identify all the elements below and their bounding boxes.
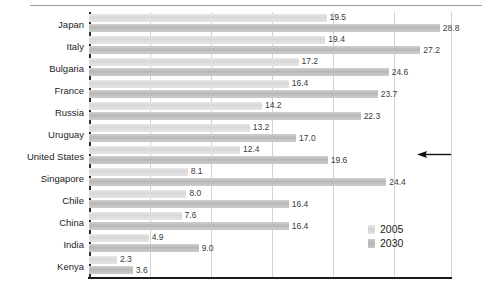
- bar-value-label-2005: 19.5: [330, 13, 347, 22]
- bar-2005: [89, 146, 240, 154]
- legend-swatch-icon-2005: [368, 225, 375, 234]
- x-axis-line: [88, 277, 452, 279]
- bar-2030: [89, 156, 328, 164]
- bar-2005: [89, 168, 188, 176]
- bar-2030: [89, 24, 440, 32]
- legend-label-2005: 2005: [380, 224, 403, 235]
- y-axis-label-japan: Japan: [0, 20, 84, 30]
- bar-value-label-2005: 2.3: [120, 255, 132, 264]
- y-axis-label-bulgaria: Bulgaria: [0, 64, 84, 74]
- bar-value-label-2005: 12.4: [243, 145, 260, 154]
- legend-swatch-icon-2030: [368, 239, 375, 248]
- legend-entry-2030: 2030: [368, 236, 403, 250]
- bar-value-label-2030: 16.4: [292, 222, 309, 231]
- bar-2030: [89, 266, 133, 274]
- bar-2030: [89, 68, 389, 76]
- bar-2005: [89, 124, 250, 132]
- bar-2030: [89, 222, 289, 230]
- y-axis-label-france: France: [0, 86, 84, 96]
- bar-2030: [89, 90, 378, 98]
- bar-2005: [89, 256, 117, 264]
- bar-value-label-2005: 13.2: [253, 123, 270, 132]
- bar-value-label-2005: 4.9: [152, 233, 164, 242]
- chart-figure: JapanItalyBulgariaFranceRussiaUruguayUni…: [0, 0, 482, 292]
- bar-2005: [89, 14, 327, 22]
- bar-row: 16.423.7: [89, 79, 452, 101]
- bar-2030: [89, 200, 289, 208]
- bar-2005: [89, 80, 289, 88]
- y-axis-label-india: India: [0, 240, 84, 250]
- bar-value-label-2030: 19.6: [331, 156, 348, 165]
- bar-2005: [89, 102, 262, 110]
- y-axis-category-labels: JapanItalyBulgariaFranceRussiaUruguayUni…: [0, 12, 84, 278]
- bar-2030: [89, 46, 420, 54]
- y-axis-label-china: China: [0, 218, 84, 228]
- bar-value-label-2005: 8.1: [191, 167, 203, 176]
- annotation-arrow-left-icon: [417, 150, 451, 159]
- bar-row: 8.016.4: [89, 189, 452, 211]
- bar-value-label-2030: 9.0: [202, 244, 214, 253]
- bar-value-label-2030: 27.2: [423, 46, 440, 55]
- bar-value-label-2005: 19.4: [328, 35, 345, 44]
- bar-value-label-2005: 17.2: [302, 57, 319, 66]
- bar-2005: [89, 190, 186, 198]
- y-axis-label-united-states: United States: [0, 152, 84, 162]
- y-axis-label-russia: Russia: [0, 108, 84, 118]
- bar-2005: [89, 234, 149, 242]
- bar-2030: [89, 244, 199, 252]
- bar-2005: [89, 36, 325, 44]
- bar-2005: [89, 58, 299, 66]
- y-axis-label-italy: Italy: [0, 42, 84, 52]
- bar-2005: [89, 212, 182, 220]
- bar-value-label-2005: 14.2: [265, 101, 282, 110]
- bar-value-label-2030: 16.4: [292, 200, 309, 209]
- bar-value-label-2005: 16.4: [292, 79, 309, 88]
- bar-value-label-2030: 24.6: [392, 68, 409, 77]
- y-axis-label-uruguay: Uruguay: [0, 130, 84, 140]
- y-axis-label-kenya: Kenya: [0, 262, 84, 272]
- bar-value-label-2030: 23.7: [381, 90, 398, 99]
- chart-legend: 2005 2030: [368, 222, 403, 250]
- legend-entry-2005: 2005: [368, 222, 403, 236]
- bar-2030: [89, 112, 361, 120]
- bar-value-label-2030: 17.0: [299, 134, 316, 143]
- bar-value-label-2030: 24.4: [389, 178, 406, 187]
- bar-value-label-2030: 3.6: [136, 266, 148, 275]
- page-rule-divider: [30, 5, 482, 6]
- y-axis-label-chile: Chile: [0, 196, 84, 206]
- bar-value-label-2030: 28.8: [443, 24, 460, 33]
- y-axis-label-singapore: Singapore: [0, 174, 84, 184]
- bar-2030: [89, 178, 386, 186]
- bar-value-label-2005: 7.6: [185, 211, 197, 220]
- bar-row: 19.427.2: [89, 35, 452, 57]
- bar-row: 12.419.6: [89, 145, 452, 167]
- bar-row: 2.33.6: [89, 255, 452, 277]
- bar-row: 17.224.6: [89, 57, 452, 79]
- bar-row: 8.124.4: [89, 167, 452, 189]
- bar-2030: [89, 134, 296, 142]
- bar-value-label-2005: 8.0: [189, 189, 201, 198]
- legend-label-2030: 2030: [380, 238, 403, 249]
- bar-row: 19.528.8: [89, 13, 452, 35]
- bar-value-label-2030: 22.3: [364, 112, 381, 121]
- bar-row: 14.222.3: [89, 101, 452, 123]
- bar-row: 13.217.0: [89, 123, 452, 145]
